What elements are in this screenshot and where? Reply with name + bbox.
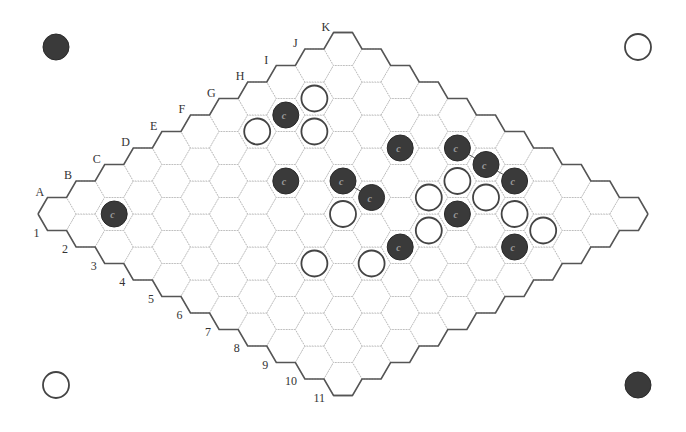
top-left-black-marker [43,34,69,60]
column-label: K [322,20,331,34]
column-label: B [64,168,72,182]
stone-label: c [368,193,373,204]
stone-label: c [282,176,287,187]
row-label: 11 [314,391,326,405]
stone-label: c [282,110,287,121]
stone-label: c [482,160,487,171]
row-label: 10 [285,374,297,388]
bottom-left-white-marker [43,372,69,398]
column-label: C [93,152,101,166]
column-label: H [236,69,245,83]
white-stone-H7[interactable] [416,185,442,211]
top-right-white-marker [625,34,651,60]
row-label: 4 [119,275,125,289]
column-label: F [179,102,186,116]
stone-label: c [511,176,516,187]
stone-label: c [396,242,401,253]
white-stone-I8[interactable] [473,185,499,211]
white-stone-G8[interactable] [416,218,442,244]
row-label: 5 [148,292,154,306]
row-label: 9 [262,358,268,372]
column-label: A [36,185,45,199]
hex-board: ABCDEFGHIJK1234567891011 cccccccccccc [0,0,686,432]
white-stone-F6[interactable] [330,201,356,227]
white-stone-E8[interactable] [359,251,385,277]
row-label: 8 [234,341,240,355]
white-stone-D7[interactable] [301,251,327,277]
white-stone-I9[interactable] [502,201,528,227]
white-stone-G2[interactable] [244,119,270,145]
stone-label: c [453,209,458,220]
column-label: G [207,86,216,100]
white-stone-I10[interactable] [530,218,556,244]
row-label: 1 [34,226,40,240]
row-label: 7 [205,325,211,339]
column-label: D [121,135,130,149]
stone-label: c [396,143,401,154]
row-label: 3 [91,259,97,273]
bottom-right-black-marker [625,372,651,398]
stone-label: c [339,176,344,187]
stone-label: c [110,209,115,220]
white-stone-I7[interactable] [444,168,470,194]
stone-label: c [453,143,458,154]
stone-label: c [511,242,516,253]
white-stone-I2[interactable] [301,86,327,112]
row-label: 6 [177,308,183,322]
column-label: J [293,36,298,50]
row-label: 2 [62,242,68,256]
column-label: E [150,119,157,133]
column-label: I [264,53,268,67]
white-stone-H3[interactable] [301,119,327,145]
